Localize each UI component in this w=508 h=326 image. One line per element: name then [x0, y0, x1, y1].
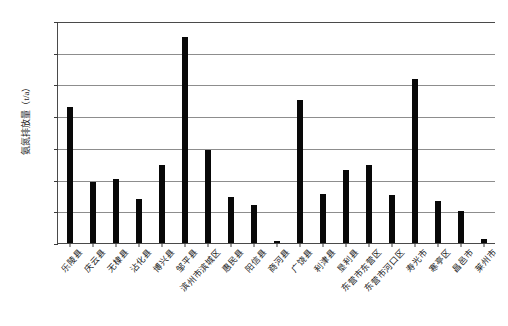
bar[interactable]: [90, 182, 96, 243]
x-axis-tick-label: 惠民县: [218, 246, 245, 274]
bar[interactable]: [366, 165, 372, 243]
bar-slot: [81, 22, 104, 243]
bar[interactable]: [67, 107, 73, 243]
bar[interactable]: [458, 211, 464, 243]
bar-series: [58, 22, 495, 243]
bar-slot: [150, 22, 173, 243]
ammonia-nitrogen-emission-bar-chart: 氨氮排放量（t/a） 02004006008001 0001 2001 400 …: [0, 0, 508, 326]
bar-slot: [404, 22, 427, 243]
bar-slot: [289, 22, 312, 243]
x-axis-tick-label: 莱州市: [472, 246, 499, 274]
bar-slot: [242, 22, 265, 243]
x-axis-tick-label: 寿光市: [403, 246, 430, 274]
bar-slot: [265, 22, 288, 243]
plot-area: 02004006008001 0001 2001 400: [57, 22, 495, 244]
x-axis-tick-label: 沾化县: [126, 246, 153, 274]
x-axis-tick-label: 寒亭区: [426, 246, 453, 274]
bar[interactable]: [389, 195, 395, 243]
bar[interactable]: [136, 199, 142, 243]
x-axis-tick-label: 乐陵县: [57, 246, 84, 274]
bar-slot: [104, 22, 127, 243]
bar[interactable]: [251, 205, 257, 243]
bar[interactable]: [412, 79, 418, 243]
bar[interactable]: [159, 165, 165, 243]
x-axis-tick-label: 无棣县: [103, 246, 130, 274]
x-axis-tick-label: 博兴县: [149, 246, 176, 274]
bar-slot: [219, 22, 242, 243]
bar-slot: [196, 22, 219, 243]
bar[interactable]: [205, 150, 211, 243]
bar-slot: [127, 22, 150, 243]
y-axis-title: 氨氮排放量（t/a）: [19, 44, 32, 194]
x-axis-tick-label: 利津县: [311, 246, 338, 274]
x-axis-label-group: 乐陵县庆云县无棣县沾化县博兴县邹平县滨州市滨城区惠民县阳信县商河县广饶县利津县垦…: [57, 246, 495, 326]
bar-slot: [335, 22, 358, 243]
bar-slot: [173, 22, 196, 243]
x-axis-tick-label: 庆云县: [80, 246, 107, 274]
bar[interactable]: [343, 170, 349, 243]
bar-slot: [427, 22, 450, 243]
bar-slot: [358, 22, 381, 243]
bar-slot: [58, 22, 81, 243]
bar-slot: [450, 22, 473, 243]
x-axis-tick-label: 昌邑市: [449, 246, 476, 274]
bar-slot: [312, 22, 335, 243]
bar[interactable]: [320, 194, 326, 243]
x-axis-tick-label: 商河县: [265, 246, 292, 274]
x-axis-tick-label: 阳信县: [242, 246, 269, 274]
bar-slot: [473, 22, 496, 243]
bar[interactable]: [182, 37, 188, 243]
x-axis-tick-label: 广饶县: [288, 246, 315, 274]
bar[interactable]: [435, 201, 441, 243]
y-axis-tick-mark: [54, 244, 58, 245]
bar[interactable]: [228, 197, 234, 243]
bar-slot: [381, 22, 404, 243]
bar[interactable]: [297, 100, 303, 244]
bar[interactable]: [113, 179, 119, 243]
